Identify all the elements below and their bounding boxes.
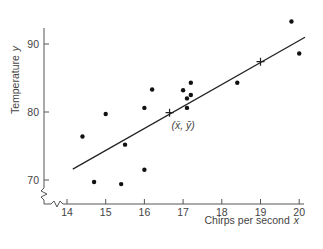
y-axis-line bbox=[41, 28, 47, 204]
x-tick-label: 14 bbox=[61, 206, 73, 218]
data-point bbox=[189, 81, 193, 85]
data-point bbox=[142, 168, 146, 172]
data-point bbox=[289, 19, 293, 23]
data-point bbox=[142, 106, 146, 110]
data-points bbox=[80, 19, 301, 186]
x-tick-label: 17 bbox=[177, 206, 189, 218]
data-point bbox=[189, 93, 193, 97]
data-point bbox=[235, 81, 239, 85]
data-point bbox=[185, 106, 189, 110]
y-tick-label: 90 bbox=[27, 38, 39, 50]
scatter-chart: 14151617181920 708090 (x̄, ȳ) Chirps per… bbox=[0, 0, 323, 249]
y-axis-title: Temperaturey bbox=[9, 45, 21, 114]
regression-line bbox=[73, 37, 305, 169]
data-point bbox=[150, 87, 154, 91]
data-point bbox=[185, 96, 189, 100]
data-point bbox=[119, 182, 123, 186]
data-point bbox=[92, 180, 96, 184]
data-point bbox=[80, 134, 84, 138]
data-point bbox=[123, 142, 127, 146]
x-tick-label: 16 bbox=[139, 206, 151, 218]
axes bbox=[41, 28, 304, 207]
data-point bbox=[297, 51, 301, 55]
x-axis-title: Chirps per secondx bbox=[205, 214, 300, 226]
y-tick-label: 80 bbox=[27, 106, 39, 118]
y-tick-label: 70 bbox=[27, 174, 39, 186]
y-ticks: 708090 bbox=[27, 38, 49, 186]
data-point bbox=[104, 112, 108, 116]
mean-point-annotation: (x̄, ȳ) bbox=[171, 119, 194, 131]
data-point bbox=[181, 88, 185, 92]
x-tick-label: 15 bbox=[100, 206, 112, 218]
